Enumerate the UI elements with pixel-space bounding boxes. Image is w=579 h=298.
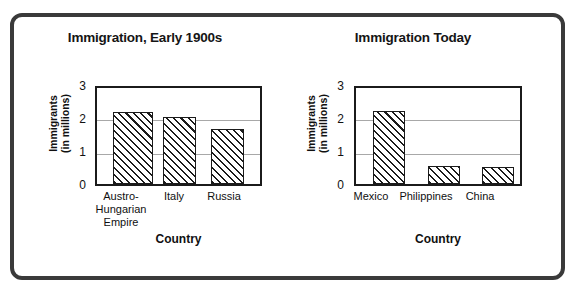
x-category-label-russia: Russia <box>191 190 257 203</box>
plot-area-right <box>354 86 522 186</box>
cat-line-3: Empire <box>85 216 157 229</box>
x-axis-label-left: Country <box>95 232 262 246</box>
chart-title-today: Immigration Today <box>282 30 544 45</box>
y-tick-2-left: 2 <box>68 113 86 125</box>
bar-philippines <box>428 166 460 184</box>
chart-panel-early-1900s: Immigration, Early 1900s Immigrants (in … <box>10 0 280 267</box>
x-axis-label-right: Country <box>354 232 522 246</box>
x-category-label-china: China <box>450 190 510 203</box>
bar-group-right <box>356 88 520 184</box>
bar-group-left <box>97 88 260 184</box>
bar-china <box>482 167 514 184</box>
bar-mexico <box>373 111 405 184</box>
y-tick-3-right: 3 <box>326 80 344 92</box>
y-tick-1-right: 1 <box>326 146 344 158</box>
plot-area-left <box>95 86 262 186</box>
chart-title-early-1900s: Immigration, Early 1900s <box>10 30 280 45</box>
chart-panel-today: Immigration Today Immigrants (in million… <box>288 0 550 267</box>
y-axis-label-line1-left: Immigrants <box>48 74 59 174</box>
y-tick-3-left: 3 <box>68 80 86 92</box>
figure-root: Immigration, Early 1900s Immigrants (in … <box>0 0 579 298</box>
bar-austro-hungarian-empire <box>113 112 153 184</box>
bar-italy <box>163 117 196 184</box>
bar-russia <box>211 129 244 184</box>
y-tick-1-left: 1 <box>68 146 86 158</box>
y-axis-label-line1-right: Immigrants <box>306 74 317 174</box>
y-tick-2-right: 2 <box>326 113 344 125</box>
cat-line-2: Hungarian <box>85 203 157 216</box>
y-tick-0-left: 0 <box>68 179 86 191</box>
